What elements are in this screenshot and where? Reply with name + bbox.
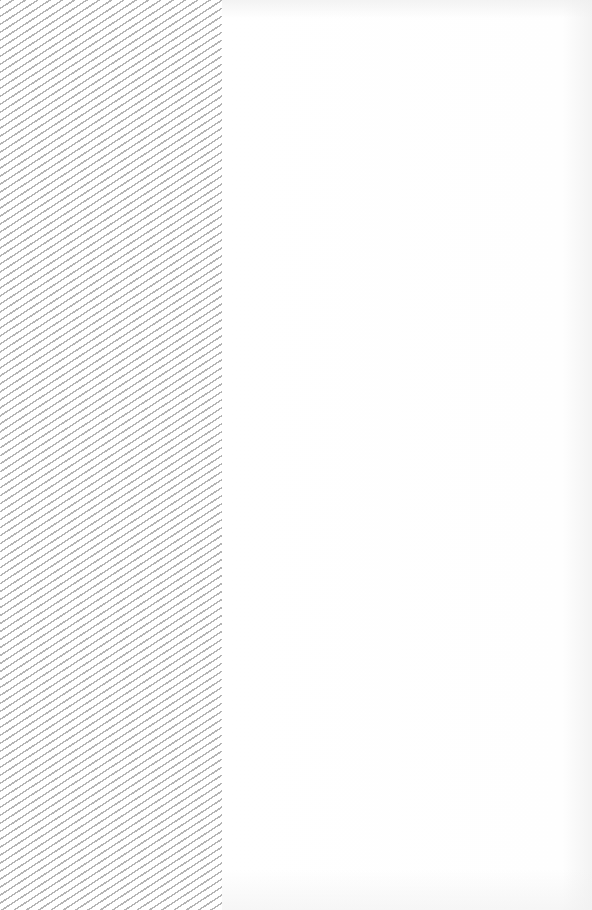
hatched-placeholder-panel xyxy=(0,0,222,910)
content-text xyxy=(222,0,223,1)
page xyxy=(0,0,592,910)
blank-content-area xyxy=(222,0,592,910)
